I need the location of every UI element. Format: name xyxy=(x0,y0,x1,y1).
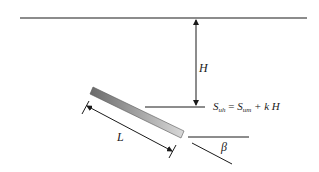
diagram-canvas xyxy=(0,0,319,172)
formula-lhs-sub: uh xyxy=(219,106,226,114)
formula-rhs-rest: + k H xyxy=(251,100,280,112)
length-tick-start xyxy=(82,101,89,114)
strength-formula: Suh = Sum + k H xyxy=(213,101,280,114)
angle-beta-label: β xyxy=(221,141,227,153)
length-tick-end xyxy=(169,145,176,158)
formula-rhs-sub: um xyxy=(243,106,252,114)
inclined-bar xyxy=(90,87,184,138)
height-label: H xyxy=(199,62,208,74)
formula-equals: = xyxy=(226,100,238,112)
length-label: L xyxy=(117,131,124,143)
